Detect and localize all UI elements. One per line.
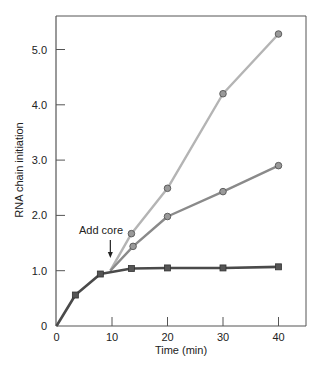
y-axis-ticks: 01.02.03.04.05.0 <box>32 44 65 333</box>
circle-marker <box>164 213 171 220</box>
y-tick-label: 0 <box>41 320 47 332</box>
y-axis-label: RNA chain initiation <box>13 122 25 217</box>
square-marker <box>276 264 282 270</box>
y-tick-label: 3.0 <box>32 154 47 166</box>
x-tick-label: 30 <box>217 331 229 343</box>
x-tick-label: 40 <box>272 331 284 343</box>
x-axis-label: Time (min) <box>155 344 207 356</box>
circle-marker <box>275 162 282 169</box>
chart: 010203040 01.02.03.04.05.0 Time (min) RN… <box>0 0 323 368</box>
y-tick-label: 2.0 <box>32 209 47 221</box>
x-axis-ticks: 010203040 <box>53 317 284 343</box>
circle-marker <box>130 243 137 250</box>
square-marker <box>97 271 103 277</box>
y-tick-label: 4.0 <box>32 99 47 111</box>
data-series <box>57 31 282 326</box>
y-tick-label: 5.0 <box>32 44 47 56</box>
circle-marker <box>164 185 171 192</box>
circle-marker <box>220 90 227 97</box>
arrow-head-icon <box>108 252 113 258</box>
annotation-add-core: Add core <box>79 224 123 258</box>
square-marker <box>220 265 226 271</box>
x-tick-label: 20 <box>161 331 173 343</box>
circle-marker <box>275 31 282 38</box>
square-marker <box>165 265 171 271</box>
y-tick-label: 1.0 <box>32 265 47 277</box>
circle-marker <box>128 230 135 237</box>
square-marker <box>128 265 134 271</box>
annotation-label: Add core <box>79 224 123 236</box>
square-marker <box>72 292 78 298</box>
series-line <box>110 34 278 271</box>
x-tick-label: 10 <box>106 331 118 343</box>
circle-marker <box>220 188 227 195</box>
x-tick-label: 0 <box>53 331 59 343</box>
series-line <box>110 166 278 271</box>
